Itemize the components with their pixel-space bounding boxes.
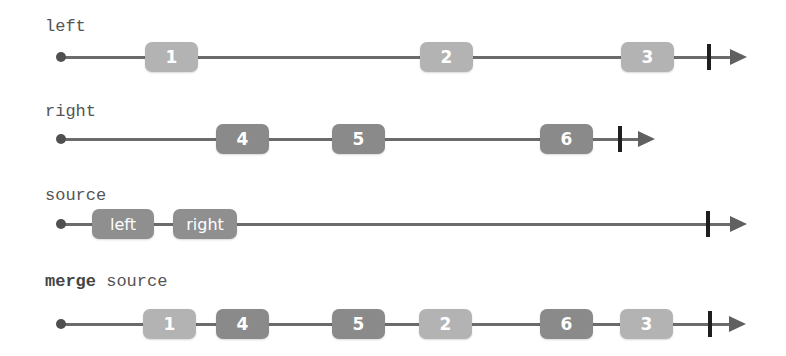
start-dot-icon bbox=[56, 219, 66, 229]
marble-merged-3: 3 bbox=[620, 309, 673, 339]
marble-merged-1: 1 bbox=[143, 309, 196, 339]
arrow-right-icon bbox=[730, 49, 747, 65]
start-dot-icon bbox=[56, 319, 66, 329]
start-dot-icon bbox=[56, 134, 66, 144]
marble-left-3: 3 bbox=[621, 42, 674, 72]
marble-left-2: 2 bbox=[420, 42, 473, 72]
marble-merged-6: 6 bbox=[540, 309, 593, 339]
operator-argument: source bbox=[96, 272, 167, 291]
stream-label-left: left bbox=[45, 18, 86, 35]
completion-marker-icon bbox=[618, 126, 622, 152]
marble-merged-2: 2 bbox=[419, 309, 472, 339]
operator-keyword: merge bbox=[45, 272, 96, 291]
timeline-line bbox=[61, 223, 733, 226]
marble-merged-4: 4 bbox=[216, 309, 269, 339]
marble-left-1: 1 bbox=[145, 42, 198, 72]
marble-right-5: 5 bbox=[332, 124, 385, 154]
marble-right-4: 4 bbox=[216, 124, 269, 154]
arrow-right-icon bbox=[730, 216, 747, 232]
marble-source-right: right bbox=[173, 209, 237, 239]
marble-merged-5: 5 bbox=[332, 309, 385, 339]
stream-label-merge-source: merge source bbox=[45, 273, 167, 290]
stream-label-source: source bbox=[45, 187, 106, 204]
start-dot-icon bbox=[56, 52, 66, 62]
marble-source-left: left bbox=[92, 209, 154, 239]
completion-marker-icon bbox=[707, 44, 711, 70]
completion-marker-icon bbox=[708, 311, 712, 337]
arrow-right-icon bbox=[638, 131, 655, 147]
completion-marker-icon bbox=[706, 211, 710, 237]
arrow-right-icon bbox=[729, 316, 746, 332]
marble-right-6: 6 bbox=[540, 124, 593, 154]
stream-label-right: right bbox=[45, 103, 96, 120]
